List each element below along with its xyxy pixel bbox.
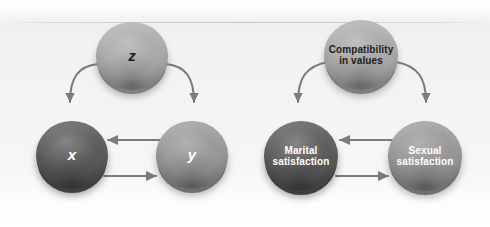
path-diagram-figure: z x y Compatibility in values Marital sa… (0, 0, 490, 227)
node-compatibility-in-values-label: Compatibility in values (325, 44, 398, 66)
node-sexual-satisfaction[interactable]: Sexual satisfaction (388, 121, 462, 191)
edge-compatibility-to-sexual (396, 62, 426, 102)
node-y-label: y (184, 147, 200, 164)
node-marital-line-2: satisfaction (273, 156, 330, 167)
node-compatibility-line-2: in values (339, 55, 383, 66)
node-x[interactable]: x (36, 121, 108, 189)
edge-z-to-x (70, 64, 98, 102)
node-sexual-satisfaction-label: Sexual satisfaction (393, 145, 458, 167)
node-sexual-line-2: satisfaction (397, 156, 454, 167)
node-compatibility-in-values[interactable]: Compatibility in values (324, 20, 398, 90)
edge-layer (0, 0, 490, 227)
edge-compatibility-to-marital (298, 62, 328, 102)
node-compatibility-line-1: Compatibility (329, 44, 394, 55)
node-marital-satisfaction-label: Marital satisfaction (269, 145, 334, 167)
node-y[interactable]: y (156, 121, 228, 189)
node-sexual-line-1: Sexual (409, 145, 442, 156)
node-z-label: z (124, 48, 140, 65)
edge-z-to-y (166, 64, 194, 102)
node-z[interactable]: z (96, 22, 168, 90)
node-x-label: x (64, 147, 80, 164)
node-marital-line-1: Marital (285, 145, 318, 156)
node-marital-satisfaction[interactable]: Marital satisfaction (264, 121, 338, 191)
